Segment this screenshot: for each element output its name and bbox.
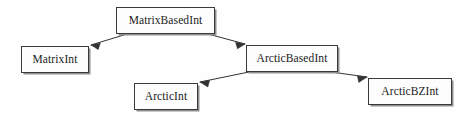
node-label: ArcticBasedInt: [256, 52, 327, 64]
arrowhead-icon: [200, 80, 210, 87]
arrowhead-icon: [91, 43, 100, 50]
edge-arcticbasedint-to-arcticbzint: [331, 72, 367, 82]
arrowhead-icon: [236, 42, 245, 49]
edge-arcticbasedint-to-arcticint: [200, 72, 249, 87]
edge-matrixbasedint-to-matrixint: [91, 34, 127, 50]
node-label: ArcticBZInt: [381, 85, 438, 97]
arrowhead-icon: [358, 76, 368, 82]
node-label: ArcticInt: [145, 90, 187, 102]
node-arctic-bz-int[interactable]: ArcticBZInt: [368, 78, 452, 105]
node-matrix-based-int[interactable]: MatrixBasedInt: [116, 7, 215, 34]
node-matrix-int[interactable]: MatrixInt: [21, 46, 89, 73]
node-label: MatrixInt: [33, 53, 78, 65]
edge-line: [91, 34, 127, 45]
node-label: MatrixBasedInt: [129, 14, 203, 26]
node-arctic-int[interactable]: ArcticInt: [134, 83, 198, 110]
class-hierarchy-diagram: MatrixBasedInt MatrixInt ArcticBasedInt …: [0, 0, 466, 117]
edge-line: [331, 72, 367, 77]
edge-matrixbasedint-to-arcticbasedint: [208, 34, 245, 49]
node-arctic-based-int[interactable]: ArcticBasedInt: [246, 45, 338, 72]
edge-line: [200, 72, 249, 82]
edge-line: [208, 34, 245, 44]
